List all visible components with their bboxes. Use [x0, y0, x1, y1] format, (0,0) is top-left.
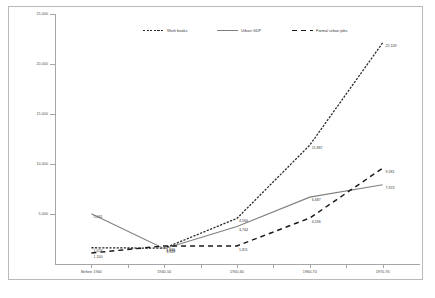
- data-point-label: 5,031: [93, 215, 102, 219]
- y-tick-mark: [50, 64, 55, 65]
- y-tick-label: 25,000: [36, 12, 48, 16]
- x-tick-mark: [237, 264, 238, 268]
- data-point-label: 6,687: [312, 198, 321, 202]
- x-tick-label: 1960-70: [303, 270, 317, 274]
- x-tick-mark: [383, 264, 384, 268]
- legend-label: Urban GDP: [241, 28, 261, 33]
- x-tick-mark: [273, 264, 274, 268]
- data-point-label: 1,100: [93, 255, 102, 259]
- y-tick-mark: [50, 114, 55, 115]
- data-point-label: 1,811: [166, 248, 175, 252]
- legend-swatch-solid-icon: [217, 29, 238, 33]
- x-tick-mark: [201, 264, 202, 268]
- y-tick-label: 10,000: [36, 162, 48, 166]
- x-tick-label: 1950-60: [230, 270, 244, 274]
- y-tick-label: 5,000: [39, 212, 49, 216]
- x-tick-mark: [91, 264, 92, 268]
- y-tick-mark: [50, 164, 55, 165]
- data-point-label: 3,744: [239, 228, 248, 232]
- data-point-label: 4,566: [239, 219, 248, 223]
- x-tick-label: 1940-50: [157, 270, 171, 274]
- data-point-label: 1,811: [239, 248, 248, 252]
- legend-item-urban-gdp[interactable]: Urban GDP: [217, 28, 261, 33]
- y-tick-label: 20,000: [36, 62, 48, 66]
- data-point-label: 1,626: [93, 249, 102, 253]
- legend-swatch-dashed-icon: [292, 29, 313, 33]
- data-point-label: 11,887: [312, 146, 323, 150]
- legend-item-formal-urban-jobs[interactable]: Formal urban jobs: [292, 28, 347, 33]
- legend-item-work-books[interactable]: Work books: [143, 28, 187, 33]
- x-tick-mark: [128, 264, 129, 268]
- chart-legend: Work books Urban GDP Formal urban jobs: [55, 28, 419, 40]
- x-tick-label: Before 1940: [81, 270, 102, 274]
- chart-figure: 25,00020,00015,00010,0005,000 Before 194…: [0, 0, 435, 298]
- chart-frame: [8, 6, 423, 280]
- y-tick-label: 15,000: [36, 112, 48, 116]
- legend-label: Formal urban jobs: [316, 28, 347, 33]
- x-tick-label: 1970-76: [376, 270, 390, 274]
- legend-label: Work books: [167, 28, 187, 33]
- y-tick-mark: [50, 214, 55, 215]
- x-tick-mark: [346, 264, 347, 268]
- data-point-label: 4,596: [312, 220, 321, 224]
- y-tick-mark: [50, 14, 55, 15]
- x-tick-mark: [310, 264, 311, 268]
- y-axis-line: [55, 14, 56, 265]
- x-tick-mark: [164, 264, 165, 268]
- data-point-label: 9,581: [386, 170, 395, 174]
- data-point-label: 7,923: [386, 186, 395, 190]
- data-point-label: 22,109: [386, 44, 397, 48]
- legend-swatch-dotted-icon: [143, 29, 164, 33]
